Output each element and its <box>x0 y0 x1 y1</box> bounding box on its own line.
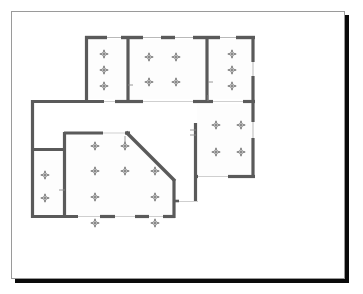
room-fills <box>34 39 253 216</box>
room-right-lower-floor <box>197 104 253 176</box>
floor-plan-svg <box>12 12 346 280</box>
drawing-sheet <box>11 11 345 279</box>
room-main-hall-floor <box>66 134 174 216</box>
room-top-middle-floor <box>130 39 205 99</box>
fixture-symbol <box>151 219 159 227</box>
room-top-left-floor <box>88 39 125 99</box>
floor-plan-drawing <box>12 12 346 280</box>
screenshot-canvas <box>0 0 363 294</box>
room-left-small-floor <box>34 151 63 216</box>
fixture-symbol <box>91 219 99 227</box>
